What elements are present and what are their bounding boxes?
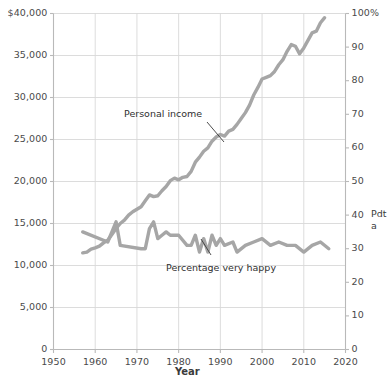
y-axis-right-tick-label: 70 bbox=[352, 108, 364, 119]
y-axis-left-tick-label: 35,000 bbox=[0, 49, 48, 60]
x-axis-tick-label: 1960 bbox=[75, 356, 115, 367]
y-axis-right-tick-label: 90 bbox=[352, 41, 364, 52]
x-axis-tick-label: 2000 bbox=[242, 356, 282, 367]
annotation-personal-income: Personal income bbox=[124, 108, 202, 119]
annotation-percentage-very-happy: Percentage very happy bbox=[166, 262, 276, 273]
y-axis-left-tick-label: 0 bbox=[0, 343, 48, 354]
y-axis-left-tick-label: $40,000 bbox=[0, 7, 48, 18]
y-axis-left-tick-label: 10,000 bbox=[0, 259, 48, 270]
x-axis-tick-label: 2010 bbox=[284, 356, 324, 367]
x-axis-tick-label: 2020 bbox=[326, 356, 366, 367]
y-axis-right-tick-label: 0 bbox=[352, 343, 358, 354]
x-axis-title: Year bbox=[175, 366, 200, 377]
y-axis-right-tick-label: 100% bbox=[352, 7, 380, 18]
y-axis-left-tick-label: 30,000 bbox=[0, 91, 48, 102]
gridlines bbox=[54, 14, 346, 350]
y-axis-right-tick-label: 40 bbox=[352, 209, 364, 220]
y-axis-right-tick-label: 30 bbox=[352, 242, 364, 253]
y-axis-left-tick-label: 5,000 bbox=[0, 301, 48, 312]
y-axis-right-tick-label: 80 bbox=[352, 74, 364, 85]
y-axis-right-tick-label: 60 bbox=[352, 141, 364, 152]
series-line-personal-income bbox=[83, 18, 325, 253]
y-axis-right-tick-label: 50 bbox=[352, 175, 364, 186]
y-axis-right-tick-label: 10 bbox=[352, 309, 364, 320]
x-axis-tick-label: 1990 bbox=[200, 356, 240, 367]
y-axis-right-tick-label: 20 bbox=[352, 276, 364, 287]
right-side-note: Pdta bbox=[371, 208, 387, 231]
x-axis-tick-label: 1950 bbox=[34, 356, 74, 367]
x-axis-tick-label: 1970 bbox=[117, 356, 157, 367]
y-axis-left-tick-label: 15,000 bbox=[0, 217, 48, 228]
y-axis-left-tick-label: 20,000 bbox=[0, 175, 48, 186]
y-axis-left-tick-label: 25,000 bbox=[0, 133, 48, 144]
x-axis-tick-label: 1980 bbox=[159, 356, 199, 367]
